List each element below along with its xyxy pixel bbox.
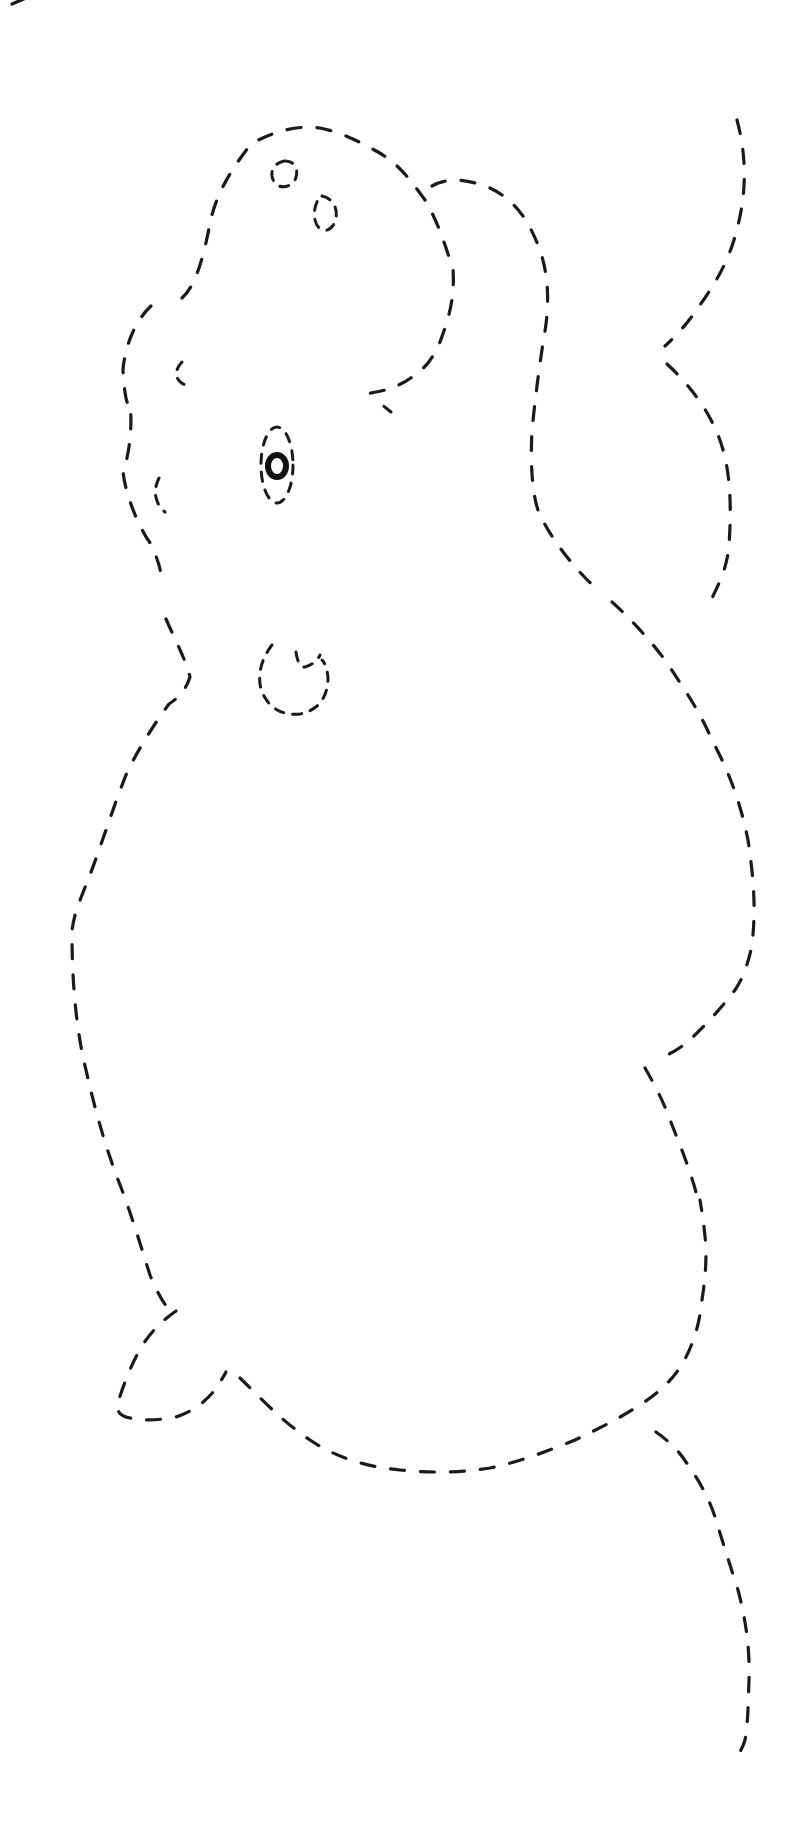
trunk-underside — [667, 364, 730, 598]
belly-outline — [240, 1200, 706, 1472]
ear-outline — [432, 180, 600, 592]
nostril-left — [272, 161, 297, 187]
trunk-bump — [176, 362, 190, 386]
eye-icon — [261, 427, 293, 503]
back-outline — [612, 602, 754, 1058]
front-leg-outline — [118, 1311, 227, 1420]
worksheet-page: Dashed-line tracing worksheet: elephant — [0, 0, 798, 1841]
body-left-outline — [72, 619, 190, 1311]
nostril-right — [314, 196, 336, 230]
head-inner-notch — [381, 404, 391, 412]
stray-mark — [12, 0, 26, 4]
head-outline — [182, 127, 453, 394]
mouth-outline — [260, 645, 328, 714]
trunk-left-outline — [123, 306, 161, 577]
trunk-fold — [155, 478, 165, 512]
elephant-tracing-drawing — [0, 0, 798, 1841]
hind-leg-outline — [645, 1068, 698, 1200]
raised-trunk-outline — [665, 120, 744, 346]
tail-outline — [656, 1432, 749, 1760]
